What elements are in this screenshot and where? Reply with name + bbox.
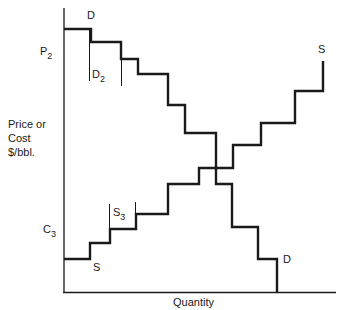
y-axis-label-line3: $/bbl. (8, 146, 35, 158)
supply-curve (64, 61, 323, 259)
supply-label-top: S (318, 43, 325, 55)
supply-demand-chart: D D S S D2 S3 P2 C3 Price or Cost $/bbl.… (0, 0, 343, 310)
p2-tick-label: P2 (40, 45, 52, 61)
s3-label: S3 (113, 206, 125, 222)
x-axis-label: Quantity (173, 296, 214, 308)
y-axis-label-line2: Cost (8, 132, 31, 144)
demand-label-top: D (87, 9, 95, 21)
c3-tick-label: C3 (43, 223, 56, 239)
y-axis-label-line1: Price or (8, 118, 46, 130)
d2-label: D2 (92, 68, 105, 84)
supply-label-bottom: S (93, 261, 100, 273)
demand-label-bottom: D (283, 253, 291, 265)
